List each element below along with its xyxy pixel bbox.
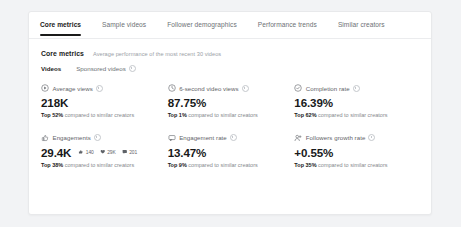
metric-card-engagement-rate: Engagement rate 13.47% Top 9% compared t…: [168, 134, 295, 170]
metric-header: Followers growth rate: [294, 134, 413, 142]
metric-comparison-note: Top 1% compared to similar creators: [168, 112, 287, 120]
metric-label: Completion rate: [306, 85, 350, 92]
tab-core-metrics[interactable]: Core metrics: [40, 20, 81, 36]
section-subtitle: Average performance of the most recent 3…: [93, 51, 221, 57]
metric-rank: Top 38%: [41, 162, 63, 168]
metric-comparison-note: Top 52% compared to similar creators: [41, 112, 145, 120]
substat-count: 140: [86, 150, 94, 155]
clock-icon: [168, 84, 176, 92]
comment-icon: [122, 149, 128, 155]
metric-rank-suffix: compared to similar creators: [187, 112, 258, 118]
metric-comparison-note: Top 38% compared to similar creators: [41, 162, 145, 170]
info-icon[interactable]: [368, 134, 375, 141]
metric-value: 29.4K: [41, 146, 71, 159]
tab-bar: Core metrics Sample videos Follower demo…: [29, 12, 431, 39]
metric-card-average-views: Average views 218K Top 52% compared to s…: [41, 84, 168, 120]
tab-label: Core metrics: [40, 21, 81, 28]
tab-label: Performance trends: [258, 21, 317, 28]
metric-label: Followers growth rate: [306, 134, 366, 141]
metric-value-row: 16.39%: [294, 96, 413, 109]
metric-value: 218K: [41, 96, 68, 109]
metric-card-completion-rate: Completion rate 16.39% Top 62% compared …: [294, 84, 421, 120]
info-icon[interactable]: [353, 85, 360, 92]
metric-rank-suffix: compared to similar creators: [317, 162, 388, 168]
info-icon[interactable]: [242, 85, 249, 92]
substat-likes: 140: [78, 149, 93, 155]
metric-header: Engagements: [41, 134, 160, 142]
metric-rank: Top 9%: [168, 162, 187, 168]
info-icon[interactable]: [230, 134, 237, 141]
metric-rank: Top 1%: [168, 112, 187, 118]
metric-card-six-second-video-views: 6-second video views 87.75% Top 1% compa…: [168, 84, 295, 120]
metrics-grid: Average views 218K Top 52% compared to s…: [29, 72, 431, 169]
tab-performance-trends[interactable]: Performance trends: [258, 20, 317, 36]
metric-comparison-note: Top 35% compared to similar creators: [294, 162, 398, 170]
thumbs-up-icon: [41, 134, 49, 142]
section-header: Core metrics Average performance of the …: [29, 39, 431, 57]
subtab-sponsored-videos[interactable]: Sponsored videos: [76, 65, 136, 72]
play-circle-icon: [41, 84, 49, 92]
metric-value-row: 29.4K 140: [41, 146, 160, 159]
substat-count: 29K: [107, 150, 116, 155]
substat-comments: 201: [122, 149, 137, 155]
tab-label: Follower demographics: [167, 21, 237, 28]
sub-tab-bar: Videos Sponsored videos: [29, 57, 431, 72]
metric-value: 13.47%: [168, 146, 207, 159]
metric-rank-suffix: compared to similar creators: [317, 112, 388, 118]
metric-label: Engagement rate: [179, 134, 227, 141]
engagement-substats: 140 29K: [78, 149, 143, 155]
page-title: Core metrics: [41, 50, 84, 57]
metric-header: 6-second video views: [168, 84, 287, 92]
metric-rank-suffix: compared to similar creators: [63, 162, 134, 168]
metric-rank: Top 62%: [294, 112, 316, 118]
metric-value-row: +0.55%: [294, 146, 413, 159]
metric-value: 16.39%: [294, 96, 333, 109]
info-icon[interactable]: [94, 134, 101, 141]
metric-card-engagements: Engagements 29.4K 140: [41, 134, 168, 170]
metric-label: 6-second video views: [179, 85, 238, 92]
tab-follower-demographics[interactable]: Follower demographics: [167, 20, 237, 36]
core-metrics-panel: Core metrics Sample videos Follower demo…: [28, 11, 432, 215]
metric-label: Average views: [53, 85, 93, 92]
metric-value-row: 218K: [41, 96, 160, 109]
tab-sample-videos[interactable]: Sample videos: [102, 20, 146, 36]
metric-value: +0.55%: [294, 146, 333, 159]
metric-rank-suffix: compared to similar creators: [187, 162, 258, 168]
metric-header: Engagement rate: [168, 134, 287, 142]
metric-rank: Top 35%: [294, 162, 316, 168]
follower-icon: [294, 134, 302, 142]
subtab-label: Videos: [41, 65, 61, 72]
info-icon[interactable]: [129, 65, 136, 72]
check-circle-icon: [294, 84, 302, 92]
subtab-videos[interactable]: Videos: [41, 65, 61, 72]
speech-bubble-icon: [168, 134, 176, 142]
tab-label: Similar creators: [338, 21, 385, 28]
metric-rank-suffix: compared to similar creators: [63, 112, 134, 118]
metric-value-row: 13.47%: [168, 146, 287, 159]
metric-comparison-note: Top 62% compared to similar creators: [294, 112, 398, 120]
like-icon: [78, 149, 84, 155]
metric-rank: Top 52%: [41, 112, 63, 118]
tab-similar-creators[interactable]: Similar creators: [338, 20, 385, 36]
metric-value-row: 87.75%: [168, 96, 287, 109]
metric-comparison-note: Top 9% compared to similar creators: [168, 162, 287, 170]
metric-card-followers-growth-rate: Followers growth rate +0.55% Top 35% com…: [294, 134, 421, 170]
heart-icon: [100, 149, 106, 155]
metric-header: Average views: [41, 84, 160, 92]
subtab-label: Sponsored videos: [76, 65, 126, 72]
tab-label: Sample videos: [102, 21, 146, 28]
metric-label: Engagements: [53, 134, 91, 141]
metric-header: Completion rate: [294, 84, 413, 92]
substat-hearts: 29K: [100, 149, 116, 155]
info-icon[interactable]: [96, 85, 103, 92]
substat-count: 201: [129, 150, 137, 155]
metric-value: 87.75%: [168, 96, 207, 109]
